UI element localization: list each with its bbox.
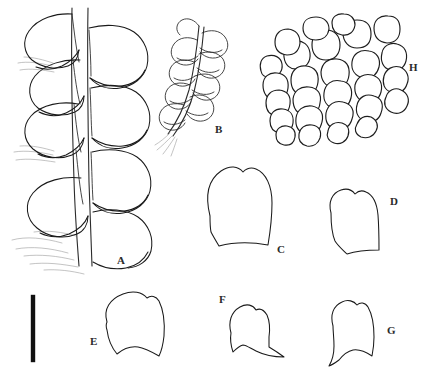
- figure-a-label: A: [117, 254, 125, 266]
- plate-canvas: A: [0, 0, 423, 378]
- figure-b-label: B: [215, 123, 223, 135]
- scale-bar: [31, 295, 35, 362]
- figure-c-label: C: [277, 243, 285, 255]
- figure-g-label: G: [387, 324, 396, 336]
- figure-h-label: H: [409, 61, 418, 73]
- figure-d-label: D: [390, 195, 398, 207]
- illustration-plate: Botanical line-drawing plate: [0, 0, 423, 378]
- figure-e-label: E: [90, 335, 98, 347]
- figure-f-label: F: [219, 293, 226, 305]
